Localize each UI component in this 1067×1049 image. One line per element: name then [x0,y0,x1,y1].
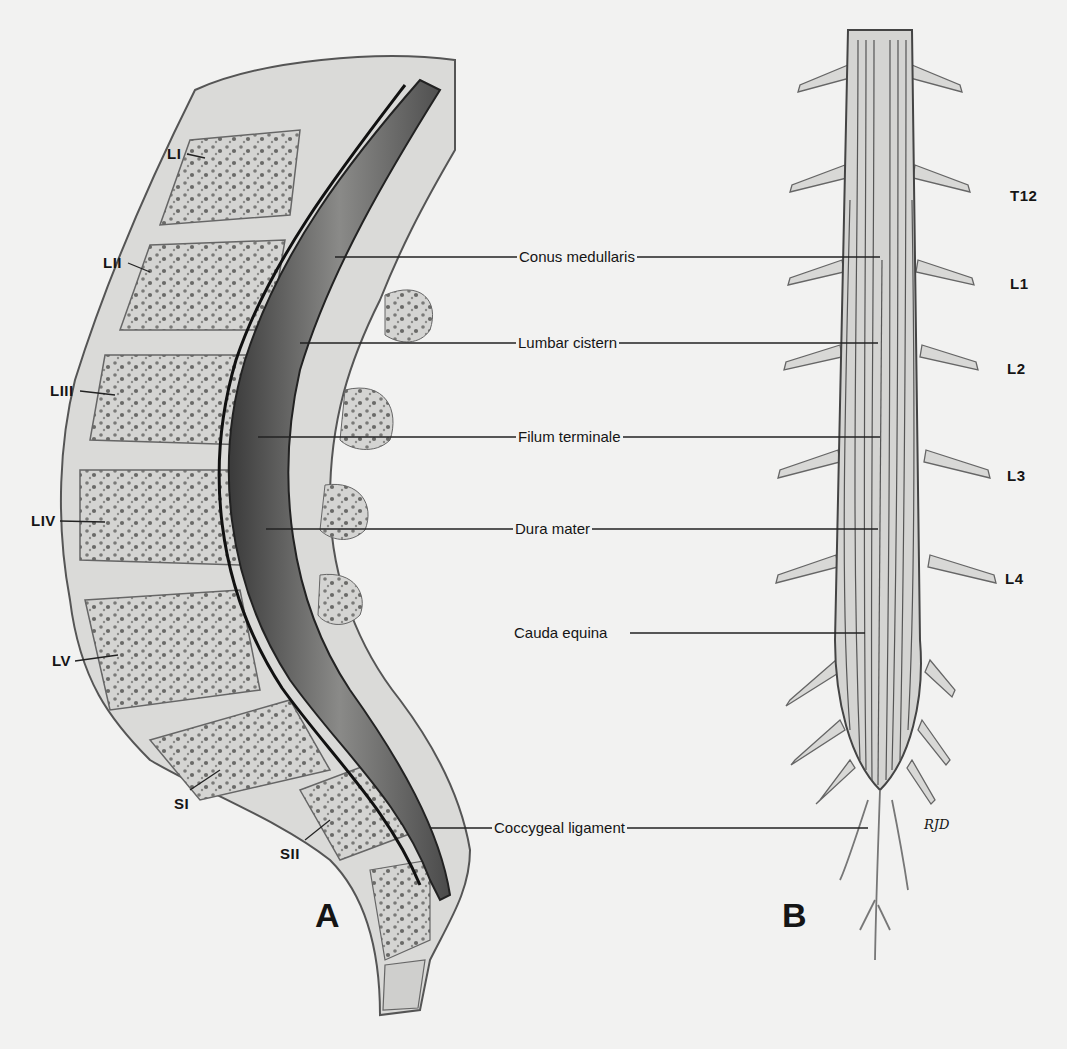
label-vertebra-l3: LIII [50,382,74,399]
panel-letter-a: A [315,896,340,935]
label-sacral-s2: SII [280,845,300,862]
label-cauda-equina: Cauda equina [512,624,609,642]
figure: Conus medullaris Lumbar cistern Filum te… [0,0,1067,1049]
label-level-l3: L3 [1007,467,1026,484]
label-level-l2: L2 [1007,360,1026,377]
label-filum-terminale: Filum terminale [516,428,623,446]
label-lumbar-cistern: Lumbar cistern [516,334,619,352]
label-level-l1: L1 [1010,275,1029,292]
label-conus-medullaris: Conus medullaris [517,248,637,266]
label-sacral-s1: SI [174,795,189,812]
label-level-l4: L4 [1005,570,1024,587]
label-level-t12: T12 [1010,187,1037,204]
label-vertebra-l1: LI [167,145,181,162]
label-vertebra-l4: LIV [31,512,56,529]
label-vertebra-l5: LV [52,652,71,669]
label-vertebra-l2: LII [103,254,122,271]
panel-letter-b: B [782,896,807,935]
artist-signature: RJD [924,817,949,832]
label-coccygeal-ligament: Coccygeal ligament [492,819,627,837]
label-dura-mater: Dura mater [513,520,592,538]
